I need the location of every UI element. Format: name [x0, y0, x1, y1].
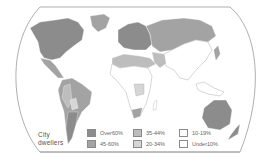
legend-label: 20-34% [146, 141, 165, 147]
legend-item-under10: Under10% [179, 139, 218, 148]
legend-swatch [179, 140, 188, 148]
legend-swatch [87, 140, 96, 148]
legend-label: 35-44% [146, 130, 165, 136]
legend-item-45-60: 45-60% [87, 139, 119, 148]
legend-swatch [133, 129, 142, 137]
legend-title: City dwellers [38, 131, 63, 146]
legend-swatch [133, 140, 142, 148]
legend-label: Under10% [192, 141, 218, 147]
legend-item-20-34: 20-34% [133, 139, 165, 148]
legend-title-line-1: City [38, 131, 63, 139]
world-map: City dwellers Over60% 45-60% 35-44% 20-3… [0, 0, 267, 163]
legend-title-line-2: dwellers [38, 139, 63, 147]
legend-item-over60: Over60% [87, 128, 123, 137]
legend-label: 10-19% [192, 130, 211, 136]
legend-label: Over60% [100, 130, 123, 136]
legend-item-35-44: 35-44% [133, 128, 165, 137]
legend-swatch [179, 129, 188, 137]
legend-item-10-19: 10-19% [179, 128, 211, 137]
legend-swatch [87, 129, 96, 137]
legend-label: 45-60% [100, 141, 119, 147]
